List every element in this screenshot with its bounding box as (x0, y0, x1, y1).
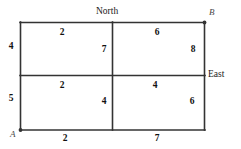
edge-weight-bottom-left-horizontal: 2 (59, 134, 71, 144)
edge-weight-center-upper-vertical: 7 (98, 45, 110, 55)
edge-weight-left-upper-vertical: 4 (5, 42, 17, 52)
edge-weight-right-upper-vertical: 8 (187, 45, 199, 55)
edge-weight-top-left-horizontal: 2 (56, 28, 68, 38)
edge-weight-middle-left-horizontal: 2 (56, 81, 68, 91)
edge-weight-left-lower-vertical: 5 (5, 94, 17, 104)
edge-weight-bottom-right-horizontal: 7 (151, 134, 163, 144)
vertex-label-b: B (209, 8, 215, 17)
direction-label-east: East (208, 70, 224, 80)
vertex-label-a: A (10, 130, 16, 139)
edge-weight-top-right-horizontal: 6 (151, 28, 163, 38)
edge-weight-center-lower-vertical: 4 (98, 97, 110, 107)
direction-label-north: North (96, 7, 118, 17)
grid-path-diagram: North East A B 2 6 2 4 2 7 4 5 7 4 8 6 (0, 0, 241, 149)
edge-weight-right-lower-vertical: 6 (186, 97, 198, 107)
edge-weight-middle-right-horizontal: 4 (149, 81, 161, 91)
vertex-marker-a (19, 128, 23, 132)
vertex-marker-b (203, 21, 207, 25)
diagram-canvas (0, 0, 241, 149)
